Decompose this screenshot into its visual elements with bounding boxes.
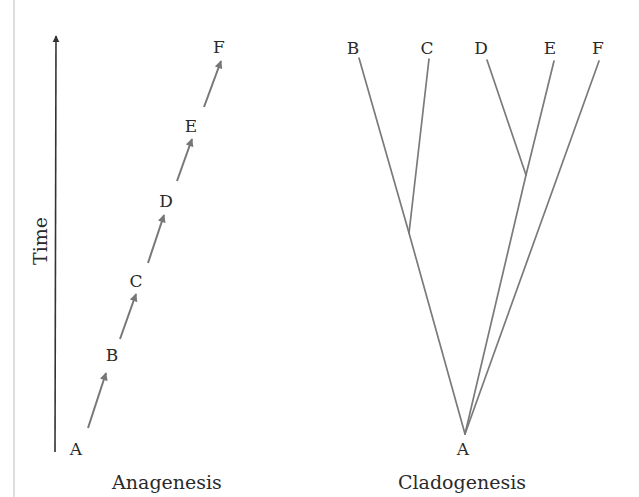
anagenesis-node-f: F [213,37,225,57]
step-arrow-e-f [204,61,221,107]
cladogenesis-root-a: A [456,439,470,459]
branch-root-de [465,175,526,434]
branch-root-bc [409,233,465,434]
cladogenesis-tip-e: E [544,38,556,58]
branch-d [487,60,526,175]
branch-f [465,61,599,434]
anagenesis-panel: Time A B C D E F Anagenesis [29,36,225,493]
anagenesis-node-b: B [106,345,119,365]
cladogenesis-tip-c: C [420,38,433,58]
cladogenesis-caption: Cladogenesis [398,471,526,493]
time-axis-arrow [55,36,56,452]
cladogenesis-tip-b: B [347,38,360,58]
time-axis-label: Time [29,217,51,265]
anagenesis-node-d: D [159,191,173,211]
anagenesis-node-e: E [185,116,197,136]
step-arrow-d-e [177,139,192,181]
branch-e [526,61,554,175]
cladogenesis-tip-f: F [592,38,604,58]
anagenesis-node-a: A [69,439,83,459]
step-arrow-c-d [148,215,164,263]
branch-c [409,59,429,233]
branch-b [359,58,409,233]
cladogenesis-panel: B C D E F A Cladogenesis [347,38,604,493]
step-arrow-a-b [88,373,106,428]
step-arrow-b-c [120,294,136,339]
cladogenesis-tip-d: D [474,38,488,58]
anagenesis-node-c: C [129,271,142,291]
anagenesis-caption: Anagenesis [111,471,222,493]
speciation-figure: Time A B C D E F Anagenesis [0,0,639,497]
